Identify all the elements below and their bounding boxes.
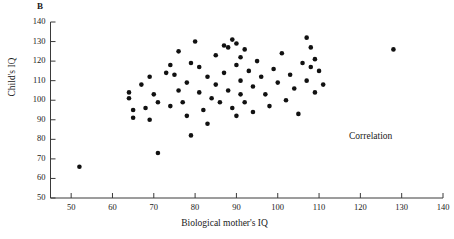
data-point <box>213 82 218 87</box>
data-point <box>234 41 239 46</box>
data-point <box>296 112 301 117</box>
data-point <box>391 47 396 52</box>
data-point <box>234 114 239 119</box>
data-point <box>201 108 206 113</box>
data-point <box>238 78 243 83</box>
data-points <box>77 35 396 169</box>
y-tick-label: 140 <box>24 16 46 26</box>
data-point <box>189 61 194 66</box>
x-tick-label: 140 <box>430 202 454 212</box>
data-point <box>259 74 264 79</box>
data-point <box>234 63 239 68</box>
data-point <box>292 86 297 91</box>
data-point <box>197 65 202 70</box>
data-point <box>317 69 322 74</box>
data-point <box>226 88 231 93</box>
x-tick-label: 110 <box>306 202 332 212</box>
y-tick-label: 70 <box>24 153 46 163</box>
y-tick-label: 90 <box>24 114 46 124</box>
x-tick-label: 50 <box>58 202 84 212</box>
data-point <box>218 100 223 105</box>
data-point <box>308 45 313 50</box>
data-point <box>263 92 268 97</box>
x-tick-label: 80 <box>182 202 208 212</box>
data-point <box>238 92 243 97</box>
data-point <box>156 100 161 105</box>
data-point <box>147 74 152 79</box>
data-point <box>176 49 181 54</box>
data-point <box>242 100 247 105</box>
x-tick-label: 100 <box>265 202 291 212</box>
data-point <box>222 71 227 76</box>
x-tick-label: 130 <box>389 202 415 212</box>
y-tick-label: 80 <box>24 133 46 143</box>
data-point <box>131 108 136 113</box>
data-point <box>230 37 235 42</box>
data-point <box>226 45 231 50</box>
data-point <box>205 74 210 79</box>
data-point <box>288 73 293 78</box>
data-point <box>172 73 177 78</box>
data-point <box>251 84 256 89</box>
data-point <box>284 98 289 103</box>
data-point <box>304 35 309 40</box>
data-point <box>143 106 148 111</box>
data-point <box>156 151 161 156</box>
data-point <box>205 121 210 126</box>
data-point <box>185 114 190 119</box>
data-point <box>321 82 326 87</box>
data-point <box>242 47 247 52</box>
data-point <box>267 104 272 109</box>
data-point <box>300 61 305 66</box>
data-point <box>139 82 144 87</box>
data-point <box>176 88 181 93</box>
data-point <box>213 53 218 58</box>
data-point <box>230 106 235 111</box>
data-point <box>168 104 173 109</box>
y-tick-label: 110 <box>24 75 46 85</box>
data-point <box>127 96 132 101</box>
data-point <box>77 164 82 169</box>
data-point <box>275 80 280 85</box>
data-point <box>247 69 252 74</box>
data-point <box>164 71 169 76</box>
data-point <box>251 110 256 115</box>
data-point <box>131 116 136 121</box>
data-point <box>222 43 227 48</box>
data-point <box>180 100 185 105</box>
data-point <box>209 96 214 101</box>
y-tick-label: 60 <box>24 172 46 182</box>
data-point <box>280 51 285 56</box>
data-point <box>147 117 152 122</box>
data-point <box>127 90 132 95</box>
data-point <box>255 59 260 64</box>
data-point <box>168 63 173 68</box>
data-point <box>304 78 309 83</box>
data-point <box>189 133 194 138</box>
data-point <box>313 57 318 62</box>
y-tick-label: 120 <box>24 55 46 65</box>
x-axis-title: Biological mother's IQ <box>0 218 449 228</box>
y-tick-label: 50 <box>24 192 46 202</box>
data-point <box>185 80 190 85</box>
data-point <box>238 55 243 60</box>
y-axis-title: Child's IQ <box>7 37 17 117</box>
x-tick-label: 70 <box>141 202 167 212</box>
x-tick-label: 120 <box>347 202 373 212</box>
y-tick-label: 130 <box>24 36 46 46</box>
x-tick-label: 90 <box>223 202 249 212</box>
x-tick-label: 60 <box>99 202 125 212</box>
data-point <box>197 90 202 95</box>
data-point <box>313 90 318 95</box>
data-point <box>271 67 276 72</box>
data-point <box>193 39 198 44</box>
data-point <box>151 92 156 97</box>
correlation-annotation: Correlation <box>349 131 392 141</box>
y-tick-label: 100 <box>24 94 46 104</box>
data-point <box>308 65 313 70</box>
